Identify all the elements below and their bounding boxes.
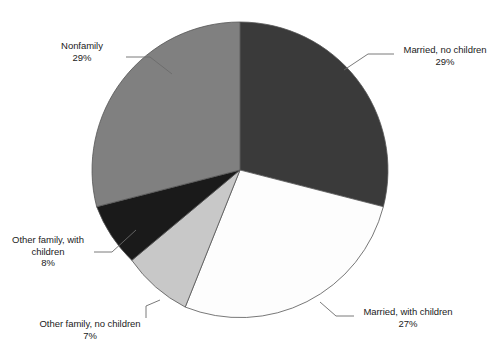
pie-label-other-family-no-children: Other family, no children 7% bbox=[24, 318, 156, 341]
leader-line-married-no-children bbox=[344, 54, 394, 70]
pie-label-other-family-no-children-value: 7% bbox=[24, 330, 156, 342]
pie-label-other-family-with-children: Other family, with children 8% bbox=[4, 234, 92, 269]
pie-label-other-family-with-children-value: 8% bbox=[4, 257, 92, 269]
pie-label-other-family-no-children-name: Other family, no children bbox=[24, 318, 156, 330]
pie-label-nonfamily-value: 29% bbox=[40, 52, 124, 64]
pie-label-married-with-children: Married, with children 27% bbox=[356, 306, 460, 329]
pie-label-married-no-children-name: Married, no children bbox=[396, 44, 494, 56]
pie-label-married-with-children-value: 27% bbox=[356, 318, 460, 330]
pie-label-married-with-children-name: Married, with children bbox=[356, 306, 460, 318]
pie-label-nonfamily-name: Nonfamily bbox=[40, 40, 124, 52]
leader-line-other-family-no-children bbox=[146, 300, 160, 318]
leader-line-married-with-children bbox=[320, 302, 354, 316]
pie-label-other-family-with-children-name-line2: children bbox=[4, 246, 92, 258]
pie-chart: Nonfamily 29% Married, no children 29% M… bbox=[0, 0, 500, 357]
pie-label-married-no-children: Married, no children 29% bbox=[396, 44, 494, 67]
pie-label-other-family-with-children-name-line1: Other family, with bbox=[4, 234, 92, 246]
pie-label-nonfamily: Nonfamily 29% bbox=[40, 40, 124, 63]
pie-label-married-no-children-value: 29% bbox=[396, 56, 494, 68]
